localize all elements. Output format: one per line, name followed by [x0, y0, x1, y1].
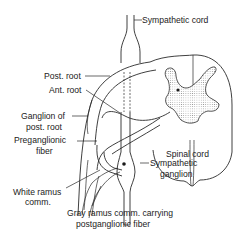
label-preganglionic-line2: fiber — [36, 146, 53, 156]
label-gray-ramus-line1: Gray ramus comm. carrying — [67, 208, 173, 218]
label-sympathetic-cord: Sympathetic cord — [142, 15, 209, 25]
label-ganglion-line2: post. root — [26, 122, 62, 132]
sympathetic-cord — [121, 15, 142, 63]
label-preganglionic-line1: Preganglionic — [14, 135, 67, 145]
label-white-ramus-line1: White ramus — [13, 187, 61, 197]
nerve-roots — [78, 62, 170, 225]
label-post-root: Post. root — [44, 71, 81, 81]
label-white-ramus-line2: comm. — [25, 197, 51, 207]
leader-lines — [66, 76, 149, 206]
label-sympathetic-ganglion-line2: ganglion — [160, 169, 193, 179]
label-ganglion-line1: Ganglion of — [21, 111, 66, 121]
spinal-cord-diagram: Sympathetic cord Post. root Ant. root Ga… — [0, 0, 245, 242]
gray-matter — [165, 67, 219, 123]
label-gray-ramus-line2: postganglionic fiber — [76, 219, 150, 229]
label-ant-root: Ant. root — [49, 85, 82, 95]
label-sympathetic-ganglion-line1: Sympathetic — [150, 158, 198, 168]
ganglion-dot — [122, 162, 126, 166]
